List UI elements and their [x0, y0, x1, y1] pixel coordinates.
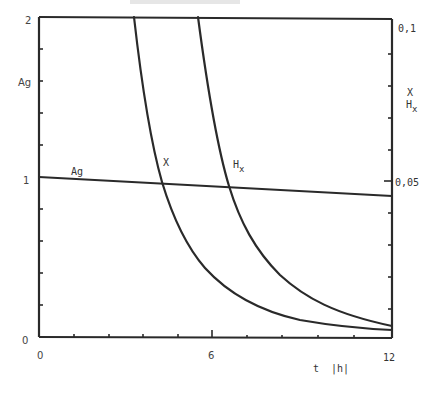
- right-axis-ticks: [384, 54, 392, 309]
- top-border: [39, 17, 392, 19]
- x-axis: [39, 337, 392, 338]
- plot-frame: [39, 17, 392, 338]
- left-tick-label-0: 0: [22, 335, 28, 346]
- x-tick-label-0: 0: [37, 350, 43, 361]
- cropped-header-text: [130, 0, 240, 4]
- x-tick-label-6: 6: [208, 350, 214, 361]
- right-tick-label-0-1: 0,1: [398, 23, 416, 34]
- left-tick-label-1: 1: [23, 175, 29, 186]
- curve-hx: [198, 17, 392, 326]
- x-axis-title: t |h|: [313, 363, 349, 375]
- curve-label-x: X: [163, 157, 169, 168]
- chart: 2 1 0 0,1 0,05 0 6 12 Ag X Hx t |h| Ag X…: [0, 0, 432, 396]
- curve-label-ag: Ag: [71, 166, 83, 177]
- right-axis-title-x: X: [407, 87, 413, 98]
- left-tick-label-2: 2: [25, 15, 31, 26]
- curve-x: [134, 17, 392, 330]
- curve-ag: [39, 177, 392, 196]
- x-tick-label-12: 12: [383, 352, 395, 363]
- left-axis-title: Ag: [18, 77, 31, 88]
- right-axis-title-hx: Hx: [406, 99, 418, 114]
- curve-label-hx: Hx: [233, 159, 245, 174]
- right-tick-label-0-05: 0,05: [395, 177, 419, 188]
